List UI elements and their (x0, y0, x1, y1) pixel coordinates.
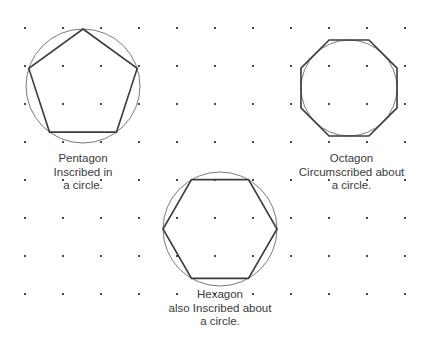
grid-dot (62, 217, 64, 219)
grid-dot (252, 27, 254, 29)
grid-dot (100, 217, 102, 219)
grid-dot (252, 103, 254, 105)
grid-dot (100, 293, 102, 295)
octagon-polygon (301, 40, 397, 136)
hexagon-circle (163, 172, 277, 286)
grid-dot (290, 255, 292, 257)
grid-dot (404, 217, 406, 219)
grid-dot (176, 141, 178, 143)
grid-dot (176, 65, 178, 67)
grid-dot (24, 293, 26, 295)
grid-dot (24, 217, 26, 219)
caption-line: a circle. (279, 179, 424, 193)
pentagon-circle (26, 29, 140, 143)
hexagon-polygon (163, 180, 277, 279)
grid-dot (214, 103, 216, 105)
caption-octagon: OctagonCircumscribed abouta circle. (279, 152, 424, 193)
pentagon-polygon (29, 29, 137, 132)
grid-dot (138, 255, 140, 257)
caption-line: Pentagon (13, 152, 153, 166)
figure-hexagon (155, 164, 285, 294)
caption-line: also Inscribed about (147, 302, 293, 316)
grid-dot (366, 255, 368, 257)
grid-dot (252, 65, 254, 67)
caption-line: Inscribed in (13, 166, 153, 180)
grid-dot (366, 293, 368, 295)
diagram-canvas: PentagonInscribed ina circle. OctagonCir… (0, 0, 432, 345)
grid-dot (138, 217, 140, 219)
figure-pentagon (18, 21, 148, 151)
grid-dot (24, 255, 26, 257)
figure-octagon (289, 28, 409, 148)
grid-dot (328, 217, 330, 219)
grid-dot (328, 293, 330, 295)
caption-pentagon: PentagonInscribed ina circle. (13, 152, 153, 193)
grid-dot (62, 293, 64, 295)
hexagon-drawing (155, 164, 285, 294)
grid-dot (214, 65, 216, 67)
grid-dot (62, 255, 64, 257)
grid-dot (214, 27, 216, 29)
grid-dot (176, 103, 178, 105)
octagon-drawing (289, 28, 409, 148)
caption-line: Circumscribed about (279, 166, 424, 180)
caption-line: Hexagon (147, 288, 293, 302)
grid-dot (290, 217, 292, 219)
grid-dot (328, 255, 330, 257)
grid-dot (138, 293, 140, 295)
caption-line: Octagon (279, 152, 424, 166)
caption-hexagon: Hexagonalso Inscribed abouta circle. (147, 288, 293, 329)
caption-line: a circle. (147, 315, 293, 329)
grid-dot (214, 141, 216, 143)
grid-dot (100, 255, 102, 257)
pentagon-drawing (18, 21, 148, 151)
grid-dot (404, 293, 406, 295)
caption-line: a circle. (13, 179, 153, 193)
grid-dot (366, 217, 368, 219)
grid-dot (404, 255, 406, 257)
grid-dot (176, 27, 178, 29)
grid-dot (252, 141, 254, 143)
